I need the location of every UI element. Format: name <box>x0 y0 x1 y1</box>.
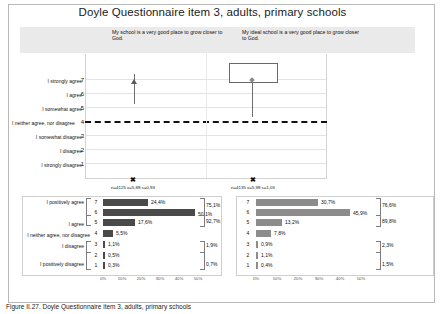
stats-actual: n=4125 x=5,88 s=0,93 <box>98 185 168 190</box>
bar-num-3: 3 <box>92 241 100 247</box>
bar-3 <box>103 241 105 248</box>
bar-value-3: 1,1% <box>108 241 119 247</box>
scale-label-5: I somewhat agree <box>20 106 82 112</box>
bracket-right-ideal-positively-disagree <box>376 252 381 270</box>
bracket-label-positively-disagree: I positively disagree <box>22 261 84 267</box>
bar-ideal-3 <box>256 241 258 248</box>
bar-1 <box>103 262 105 269</box>
bar-num-ideal-1: 1 <box>244 262 252 268</box>
bar-num-5: 5 <box>92 219 100 225</box>
xtick-ideal-0: 0% <box>249 276 263 281</box>
scale-num-6: 6 <box>74 91 84 97</box>
xtick-40: 40% <box>172 276 186 281</box>
scale-label-2: I disagree <box>20 148 82 154</box>
bar-4 <box>103 230 113 237</box>
panel-divider <box>206 54 207 178</box>
stats-ideal: n=4135 x=5,98 s=1,05 <box>218 185 288 190</box>
x-axis-actual: 0% 10% 20% 30% 40% 50% <box>22 276 220 284</box>
bar-num-4: 4 <box>92 230 100 236</box>
scale-label-3: I somewhat disagree <box>20 134 82 140</box>
bar-ideal-1 <box>256 262 258 269</box>
bracket-label-disagree: I disagree <box>22 243 84 249</box>
bracket-value-positively-agree: 75,1% <box>206 202 220 208</box>
xtick-ideal-30: 30% <box>312 276 326 281</box>
bracket-value-ideal-disagree: 2,3% <box>382 242 393 248</box>
bar-ideal-2 <box>256 252 258 259</box>
bar-ideal-6 <box>256 209 350 216</box>
bar-chart-actual: I positively agree I agree I neither agr… <box>22 196 220 288</box>
bar-chart-ideal: 7 6 5 4 3 2 1 30,7% 45,9% 13,2% 7,8% 0,9… <box>236 196 432 288</box>
figure-title: Doyle Questionnaire item 3, adults, prim… <box>0 6 425 18</box>
scale-label-7: I strongly agree <box>20 78 82 84</box>
category-label-neutral: I neither agree, nor disagree <box>22 232 90 238</box>
bracket-left-agree <box>86 198 91 226</box>
bar-value-ideal-1: 0,4% <box>261 262 272 268</box>
bar-value-ideal-2: 1,1% <box>261 252 272 258</box>
bar-value-2: 0,5% <box>108 252 119 258</box>
column-header-ideal: My ideal school is a very good place to … <box>242 29 360 42</box>
bar-value-ideal-3: 0,9% <box>261 241 272 247</box>
bar-7 <box>103 199 148 206</box>
bar-value-ideal-5: 13,2% <box>285 219 299 225</box>
xtick-ideal-50: 50% <box>354 276 368 281</box>
xtick-10: 10% <box>115 276 129 281</box>
x-axis-ideal: 0% 10% 20% 30% 40% 50% <box>236 276 432 284</box>
column-header-actual: My school is a very good place to grow c… <box>112 29 232 42</box>
bar-num-7: 7 <box>92 199 100 205</box>
bar-value-7: 24,4% <box>151 199 165 205</box>
bar-value-ideal-4: 7,8% <box>274 230 285 236</box>
scale-label-1: I strongly disagree <box>20 162 82 168</box>
bar-num-6: 6 <box>92 209 100 215</box>
bar-value-ideal-6: 45,9% <box>353 210 367 216</box>
bracket-right-ideal-agree <box>376 198 381 227</box>
xtick-ideal-40: 40% <box>333 276 347 281</box>
scale-label-4: I neither agree, nor disagree <box>12 120 74 126</box>
xtick-ideal-20: 20% <box>291 276 305 281</box>
bracket-value-ideal-agree: 89,8% <box>382 218 396 224</box>
bar-num-ideal-5: 5 <box>244 219 252 225</box>
bar-value-5: 17,6% <box>138 219 152 225</box>
bar-ideal-4 <box>256 230 271 237</box>
bar-num-ideal-2: 2 <box>244 252 252 258</box>
bar-num-ideal-3: 3 <box>244 241 252 247</box>
bar-ideal-5 <box>256 219 282 226</box>
x-mark-ideal: ✖ <box>250 176 256 184</box>
bracket-value-positively-disagree: 0,7% <box>206 261 217 267</box>
bracket-left-positively-disagree <box>86 252 91 270</box>
bar-5 <box>103 219 135 226</box>
figure-caption: Figure II.27. Doyle Questionnaire item 3… <box>6 303 426 310</box>
x-mark-actual: ✖ <box>130 176 136 184</box>
bar-value-ideal-7: 30,7% <box>321 199 335 205</box>
scale-num-2: 2 <box>74 147 84 153</box>
bar-value-4: 5,5% <box>116 230 127 236</box>
scale-num-4: 4 <box>74 119 84 125</box>
bar-num-ideal-7: 7 <box>244 199 252 205</box>
bar-value-1: 0,3% <box>108 262 119 268</box>
bracket-label-positively-agree: I positively agree <box>22 199 84 205</box>
xtick-30: 30% <box>153 276 167 281</box>
bar-ideal-7 <box>256 199 318 206</box>
bracket-value-ideal-positively-disagree: 1,5% <box>382 261 393 267</box>
bar-num-2: 2 <box>92 252 100 258</box>
xtick-20: 20% <box>134 276 148 281</box>
figure-page: Doyle Questionnaire item 3, adults, prim… <box>0 0 441 314</box>
xtick-ideal-10: 10% <box>270 276 284 281</box>
bracket-value-ideal-positively-agree: 76,6% <box>382 202 396 208</box>
marker-triangle-actual <box>131 79 137 84</box>
bracket-right-agree <box>200 198 205 227</box>
bracket-right-positively-disagree <box>200 252 205 270</box>
scale-num-1: 1 <box>74 161 84 167</box>
xtick-50: 50% <box>191 276 205 281</box>
bracket-value-disagree: 1,9% <box>206 242 217 248</box>
bar-num-ideal-6: 6 <box>244 209 252 215</box>
bracket-value-agree: 92,7% <box>206 218 220 224</box>
bar-num-1: 1 <box>92 262 100 268</box>
bar-2 <box>103 252 105 259</box>
marker-stem-ideal <box>252 79 253 117</box>
scale-num-7: 7 <box>74 77 84 83</box>
xtick-0: 0% <box>96 276 110 281</box>
bracket-label-agree: I agree <box>22 221 84 227</box>
scale-num-5: 5 <box>74 105 84 111</box>
bar-6 <box>103 209 195 216</box>
scale-num-3: 3 <box>74 133 84 139</box>
